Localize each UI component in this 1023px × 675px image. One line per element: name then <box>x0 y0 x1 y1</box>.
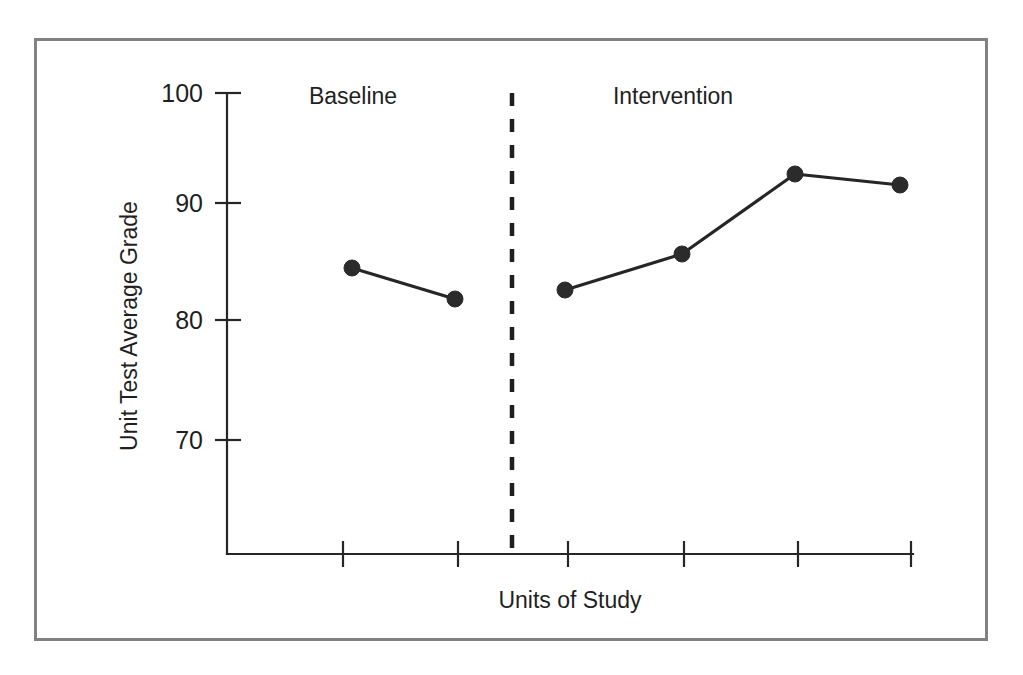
data-point <box>447 291 463 307</box>
phase-label-baseline: Baseline <box>309 83 397 109</box>
line-chart: 100 90 80 70 Baseline Intervention Unit … <box>37 41 991 644</box>
y-tick-label-100: 100 <box>161 79 203 107</box>
y-tick-label-90: 90 <box>175 189 203 217</box>
y-tick-label-80: 80 <box>175 306 203 334</box>
data-point <box>557 282 573 298</box>
series-line-baseline <box>352 268 455 299</box>
data-point <box>892 177 908 193</box>
data-point <box>674 246 690 262</box>
data-point <box>787 166 803 182</box>
data-point <box>344 260 360 276</box>
y-tick-label-70: 70 <box>175 426 203 454</box>
series-line-intervention <box>565 174 900 290</box>
y-axis-title: Unit Test Average Grade <box>116 201 142 451</box>
phase-label-intervention: Intervention <box>613 83 733 109</box>
x-axis-title: Units of Study <box>498 587 642 613</box>
figure-frame: 100 90 80 70 Baseline Intervention Unit … <box>34 38 988 641</box>
